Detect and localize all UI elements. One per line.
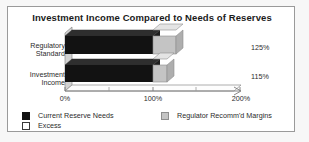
bar-1-gray-top (153, 24, 183, 30)
x-tick-label-100: 100% (138, 94, 168, 103)
bar-2-current-reserve-needs (65, 65, 153, 82)
bar-2-gray-side (167, 59, 174, 82)
x-tick-label-0: 0% (50, 94, 80, 103)
legend-swatch-white-icon (22, 122, 30, 130)
legend-label-excess: Excess (38, 121, 61, 130)
legend-label-current-reserve-needs: Current Reserve Needs (38, 111, 114, 120)
legend-swatch-black-icon (22, 112, 30, 120)
bar-1-current-reserve-needs (65, 36, 153, 54)
legend-label-regulator-recommd-margins: Regulator Recomm'd Margins (177, 111, 272, 120)
legend-swatch-gray-icon (161, 112, 169, 120)
bars-svg (8, 7, 296, 107)
bar-1-regulator-margins (153, 36, 176, 54)
bar-1-black-top (65, 30, 160, 36)
chart-legend: Current Reserve Needs Excess Regulator R… (8, 107, 296, 131)
bar-2-black-top (65, 59, 160, 65)
bar-1-gray-side (176, 30, 183, 54)
data-label-investment-income: 115% (251, 72, 269, 81)
bar-2-regulator-margins (153, 65, 167, 82)
x-tick-label-200: 200% (226, 94, 256, 103)
data-label-regulatory-standard: 125% (251, 43, 269, 52)
chart-frame: Investment Income Compared to Needs of R… (7, 6, 295, 132)
